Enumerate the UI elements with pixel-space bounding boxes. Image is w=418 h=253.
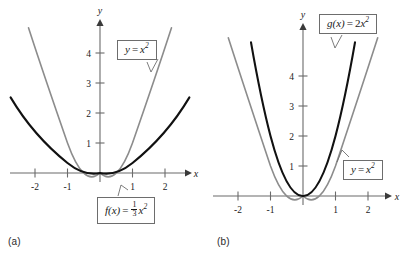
x-axis-label: x xyxy=(193,168,199,179)
y-equals-x-squared-callout: y=x2 xyxy=(343,160,383,180)
x-tick-label-1: 1 xyxy=(333,205,338,215)
x-tick-label--2: -2 xyxy=(31,182,39,192)
y-tick-label-3: 3 xyxy=(289,102,294,112)
parabola-comparison-figure: -2 -1 1 2 1 2 3 4 x y xyxy=(0,0,418,253)
y-equals-x-squared-callout: y=x2 xyxy=(117,40,157,60)
f-of-x-callout: f(x)=13x2 xyxy=(97,197,155,224)
y-tick-label-2: 2 xyxy=(86,109,91,119)
panel-a: -2 -1 1 2 1 2 3 4 x y xyxy=(0,0,209,253)
x-axis-arrow xyxy=(185,169,192,176)
x-axis-label: x xyxy=(394,191,400,202)
x-tick-label--1: -1 xyxy=(64,182,72,192)
y-axis-arrow xyxy=(96,19,103,26)
x-tick-label--2: -2 xyxy=(234,205,242,215)
x-tick-label--1: -1 xyxy=(267,205,275,215)
callout-operator: = xyxy=(120,204,130,216)
callout-operator: = xyxy=(345,17,355,29)
panel-b-caption: (b) xyxy=(217,236,230,247)
callout-operator: = xyxy=(130,43,140,55)
leader-line-f-of-x xyxy=(118,185,128,196)
callout-rhs-exponent: 2 xyxy=(365,15,369,24)
y-axis-arrow xyxy=(299,23,306,30)
callout-operator: = xyxy=(356,163,366,175)
leader-line-y-equals-x-squared xyxy=(147,59,158,72)
callout-lhs: f(x) xyxy=(105,204,120,216)
y-tick-label-3: 3 xyxy=(86,79,91,89)
panel-b-plot: -2 -1 1 2 1 2 3 4 x y xyxy=(209,0,418,253)
callout-lhs: g(x) xyxy=(327,17,345,29)
panel-a-caption: (a) xyxy=(8,236,21,247)
y-tick-label-4: 4 xyxy=(86,49,91,59)
y-axis-label: y xyxy=(300,9,306,20)
y-tick-label-2: 2 xyxy=(289,132,294,142)
y-tick-label-4: 4 xyxy=(289,72,294,82)
y-tick-label-1: 1 xyxy=(86,139,91,149)
callout-rhs-exponent: 2 xyxy=(371,161,375,170)
x-tick-label-1: 1 xyxy=(130,182,135,192)
callout-rhs-exponent: 2 xyxy=(145,41,149,50)
callout-rhs-exponent: 2 xyxy=(143,202,147,211)
callout-fraction: 13 xyxy=(131,201,137,219)
x-tick-label-2: 2 xyxy=(163,182,168,192)
x-axis-arrow xyxy=(385,192,392,199)
g-of-x-callout: g(x)=2x2 xyxy=(319,14,377,34)
y-tick-label-1: 1 xyxy=(289,162,294,172)
panel-b: -2 -1 1 2 1 2 3 4 x y g( xyxy=(209,0,418,253)
fraction-denominator: 3 xyxy=(131,210,137,218)
y-axis-label: y xyxy=(97,5,103,16)
x-tick-label-2: 2 xyxy=(366,205,371,215)
leader-line-g-of-x xyxy=(331,35,342,48)
axes-group-b: -2 -1 1 2 1 2 3 4 x y xyxy=(213,9,400,215)
